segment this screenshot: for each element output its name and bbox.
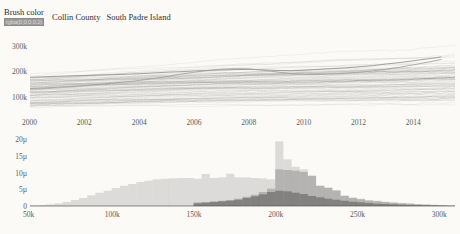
histogram-bar[interactable] xyxy=(104,191,112,206)
histogram-bar[interactable] xyxy=(63,202,71,206)
histogram-bar[interactable] xyxy=(251,196,259,206)
histogram-bar[interactable] xyxy=(349,202,357,206)
histogram-bar[interactable] xyxy=(218,201,226,206)
histogram-bar[interactable] xyxy=(161,179,169,206)
axis-tick-label: 200k xyxy=(268,210,283,219)
histogram-bar[interactable] xyxy=(365,203,373,206)
axis-tick-label: 2008 xyxy=(241,118,256,127)
brush-color-label: Brush color xyxy=(4,8,48,17)
axis-tick-label: 2002 xyxy=(77,118,92,127)
axis-tick-label: 2000 xyxy=(22,118,37,127)
histogram-bar[interactable] xyxy=(283,191,291,206)
histogram-series[interactable] xyxy=(30,141,455,206)
histogram-bar[interactable] xyxy=(79,198,87,206)
series-legend: Collin County South Padre Island xyxy=(52,12,171,22)
axis-tick-label: 5µ xyxy=(0,185,27,194)
histogram-bar[interactable] xyxy=(234,200,242,206)
axis-tick-label: 100k xyxy=(0,93,27,102)
histogram-bar[interactable] xyxy=(324,199,332,206)
background-series-bundle xyxy=(30,46,455,108)
histogram-bar[interactable] xyxy=(300,194,308,206)
timeseries-chart[interactable]: 100k200k300k 200020022004200620082010201… xyxy=(0,30,460,130)
histogram-bar[interactable] xyxy=(120,186,128,206)
axis-tick-label: 20µ xyxy=(0,135,27,144)
axis-tick-label: 300k xyxy=(0,42,27,51)
axis-tick-label: 50k xyxy=(23,210,34,219)
histogram-bar[interactable] xyxy=(128,184,136,206)
timeseries-plot-area[interactable] xyxy=(0,30,460,130)
price-histogram-chart[interactable]: 05µ10µ15µ20µ 50k100k150k200k250k300k xyxy=(0,130,460,234)
brush-color-swatch[interactable]: rgba(0,0,0,0.2) xyxy=(4,18,44,26)
legend-item-collin-county[interactable]: Collin County xyxy=(52,12,100,22)
histogram-bar[interactable] xyxy=(169,178,177,206)
axis-tick-label: 2014 xyxy=(406,118,421,127)
histogram-bar[interactable] xyxy=(144,181,152,206)
histogram-bar[interactable] xyxy=(275,191,283,206)
histogram-bar[interactable] xyxy=(292,193,300,206)
axis-tick-label: 250k xyxy=(350,210,365,219)
legend-item-south-padre-island[interactable]: South Padre Island xyxy=(106,12,170,22)
histogram-bar[interactable] xyxy=(308,196,316,206)
histogram-bar[interactable] xyxy=(87,195,95,206)
histogram-bar[interactable] xyxy=(95,193,103,206)
axis-tick-label: 10µ xyxy=(0,169,27,178)
app-root: Brush color rgba(0,0,0,0.2) Collin Count… xyxy=(0,0,460,234)
brush-color-value: rgba(0,0,0,0.2) xyxy=(6,19,42,25)
histogram-bar[interactable] xyxy=(316,197,324,206)
brush-color-control[interactable]: Brush color rgba(0,0,0,0.2) xyxy=(4,8,48,26)
histogram-bar[interactable] xyxy=(136,182,144,206)
axis-tick-label: 2004 xyxy=(132,118,147,127)
axis-tick-label: 150k xyxy=(186,210,201,219)
price-histogram-plot-area[interactable] xyxy=(0,130,460,234)
axis-tick-label: 2012 xyxy=(351,118,366,127)
axis-tick-label: 2010 xyxy=(296,118,311,127)
controls-header: Brush color rgba(0,0,0,0.2) Collin Count… xyxy=(0,0,460,30)
histogram-bar[interactable] xyxy=(357,202,365,206)
axis-tick-label: 100k xyxy=(105,210,120,219)
histogram-bar[interactable] xyxy=(243,198,251,206)
histogram-bar[interactable] xyxy=(194,203,202,206)
histogram-bar[interactable] xyxy=(202,203,210,206)
histogram-bar[interactable] xyxy=(332,200,340,206)
histogram-bar[interactable] xyxy=(267,192,275,206)
histogram-bar[interactable] xyxy=(210,202,218,206)
histogram-bar[interactable] xyxy=(194,179,202,206)
histogram-bar[interactable] xyxy=(259,194,267,206)
axis-tick-label: 2006 xyxy=(187,118,202,127)
histogram-bar[interactable] xyxy=(341,201,349,206)
axis-tick-label: 300k xyxy=(432,210,447,219)
histogram-bar[interactable] xyxy=(55,203,63,206)
axis-tick-label: 15µ xyxy=(0,152,27,161)
histogram-bar[interactable] xyxy=(226,201,234,206)
histogram-bar[interactable] xyxy=(71,200,79,206)
histogram-bar[interactable] xyxy=(153,179,161,206)
histogram-bar[interactable] xyxy=(112,188,120,206)
histogram-bar[interactable] xyxy=(202,174,210,206)
histogram-bar[interactable] xyxy=(185,178,193,206)
histogram-bar[interactable] xyxy=(177,178,185,206)
axis-tick-label: 200k xyxy=(0,67,27,76)
